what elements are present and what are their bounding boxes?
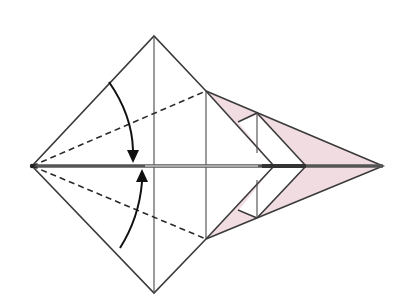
arrowhead-down-icon: [127, 150, 139, 163]
arrowhead-up-icon: [136, 169, 148, 182]
origami-diagram: [0, 0, 411, 299]
left-tip-point: [30, 164, 34, 168]
valley-fold-upper: [32, 91, 206, 166]
valley-fold-lower: [32, 166, 206, 239]
